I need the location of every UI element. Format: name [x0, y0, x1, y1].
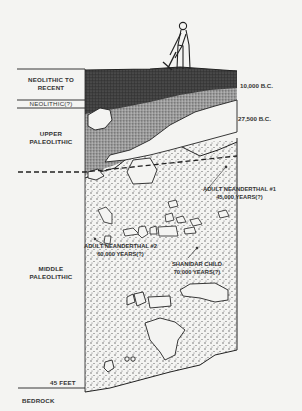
annotation-line: ADULT NEANDERTHAL #1	[203, 186, 276, 194]
annotation-shanidar-child: SHANIDAR CHILD 70,000 YEARS(?)	[172, 261, 222, 276]
annotation-line: ADULT NEANDERTHAL #2	[84, 243, 157, 251]
label-bedrock: BEDROCK	[22, 397, 62, 405]
label-line: PALEOLITHIC	[18, 273, 84, 281]
label-middle-paleolithic: MIDDLE PALEOLITHIC	[18, 265, 84, 281]
stratigraphy-diagram: NEOLITHIC TO RECENT NEOLITHIC(?) UPPER P…	[0, 0, 302, 411]
annotation-line: 70,000 YEARS(?)	[172, 269, 222, 277]
date-10000-bc: 10,000 B.C.	[240, 82, 273, 90]
label-upper-paleolithic: UPPER PALEOLITHIC	[18, 130, 84, 146]
label-line: MIDDLE	[18, 265, 84, 273]
annotation-neanderthal-2: ADULT NEANDERTHAL #2 60,000 YEARS(?)	[84, 243, 157, 258]
annotation-line: 45,000 YEARS(?)	[203, 194, 276, 202]
label-neolithic-recent: NEOLITHIC TO RECENT	[18, 76, 84, 92]
label-neolithic-questionable: NEOLITHIC(?)	[18, 100, 84, 108]
section-drawing	[0, 0, 302, 411]
label-line: RECENT	[18, 84, 84, 92]
annotation-neanderthal-1: ADULT NEANDERTHAL #1 45,000 YEARS(?)	[203, 186, 276, 201]
label-line: UPPER	[18, 130, 84, 138]
annotation-line: SHANIDAR CHILD	[172, 261, 222, 269]
label-depth-45-feet: 45 FEET	[50, 379, 84, 387]
label-line: PALEOLITHIC	[18, 138, 84, 146]
annotation-line: 60,000 YEARS(?)	[84, 251, 157, 259]
date-27500-bc: 27,500 B.C.	[238, 115, 271, 123]
label-line: NEOLITHIC TO	[18, 76, 84, 84]
excavator-figure	[163, 22, 190, 70]
